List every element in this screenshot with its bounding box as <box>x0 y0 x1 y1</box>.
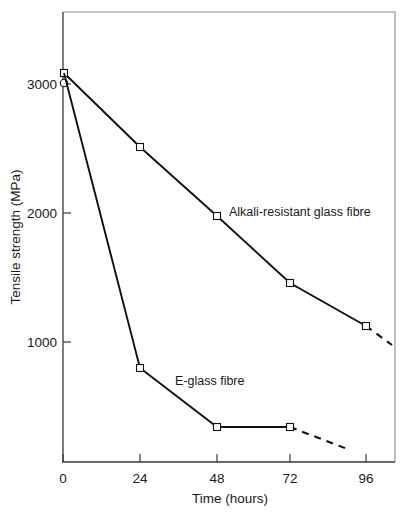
plot-axes <box>63 12 395 462</box>
y-tick-label-2000: 2000 <box>27 206 57 221</box>
data-point-marker <box>137 144 144 151</box>
y-tick-label-3000: 3000 <box>27 77 57 92</box>
x-tick-label-48: 48 <box>209 471 224 486</box>
chart-figure: 1000 2000 3000 0 24 48 72 96 Time (hours… <box>0 0 410 512</box>
data-point-marker <box>137 365 144 372</box>
chart-svg: 1000 2000 3000 0 24 48 72 96 Time (hours… <box>0 0 410 512</box>
series-dash-eglass <box>290 427 350 450</box>
data-point-marker <box>363 323 370 330</box>
series-e-glass-fibre <box>64 73 350 450</box>
x-axis-title: Time (hours) <box>192 491 268 506</box>
data-point-marker <box>214 213 221 220</box>
x-tick-label-0: 0 <box>59 471 67 486</box>
x-tick-label-24: 24 <box>132 471 148 486</box>
y-tick-label-1000: 1000 <box>27 335 57 350</box>
data-point-marker <box>287 280 294 287</box>
x-tick-marks <box>63 454 366 462</box>
x-tick-label-72: 72 <box>282 471 297 486</box>
series-annotation-eglass: E-glass fibre <box>175 374 245 388</box>
series-line-alkali <box>64 73 366 326</box>
y-tick-marks <box>63 84 71 342</box>
plot-frame <box>63 12 395 462</box>
data-point-marker <box>287 424 294 431</box>
x-tick-label-96: 96 <box>358 471 373 486</box>
y-axis-title: Tensile strength (MPa) <box>8 169 23 304</box>
series-annotation-alkali: Alkali-resistant glass fibre <box>229 205 371 219</box>
data-point-marker <box>214 424 221 431</box>
